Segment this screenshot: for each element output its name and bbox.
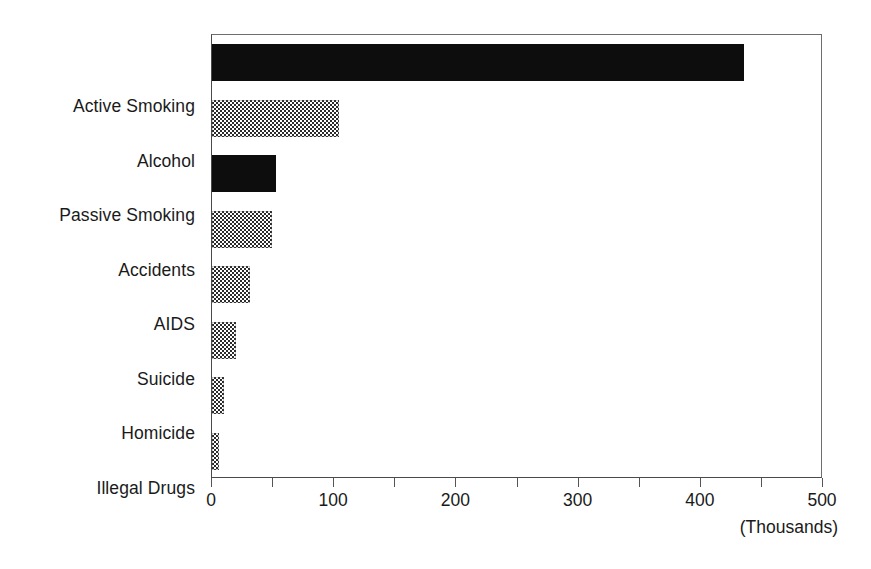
bar-illegal-drugs [212,433,219,470]
x-tick-100 [333,478,334,487]
bar-suicide [212,322,236,359]
bar-aids [212,266,250,303]
category-label-homicide: Homicide [0,423,195,443]
x-tick-label-500: 500 [807,489,836,511]
category-label-active-smoking: Active Smoking [0,96,195,116]
category-label-suicide: Suicide [0,369,195,389]
bars-layer [212,35,821,477]
bar-accidents [212,211,272,248]
category-label-accidents: Accidents [0,260,195,280]
x-tick-label-300: 300 [563,489,592,511]
x-tick-50 [272,478,273,487]
category-label-passive-smoking: Passive Smoking [0,205,195,225]
x-axis-tick-labels: 0 100 200 300 400 500 [0,489,871,515]
bar-passive-smoking [212,155,276,192]
x-axis-ticks [211,478,822,488]
x-axis-title: (Thousands) [0,516,838,538]
x-tick-200 [455,478,456,487]
x-tick-450 [761,478,762,487]
x-tick-350 [639,478,640,487]
x-tick-label-200: 200 [441,489,470,511]
x-tick-500 [822,478,823,487]
bar-homicide [212,377,224,414]
category-label-aids: AIDS [0,314,195,334]
bar-chart: Active Smoking Alcohol Passive Smoking A… [0,0,871,569]
x-tick-250 [517,478,518,487]
bar-alcohol [212,100,339,137]
plot-area [211,34,822,478]
category-label-alcohol: Alcohol [0,151,195,171]
x-tick-150 [394,478,395,487]
x-tick-label-400: 400 [685,489,714,511]
x-tick-label-0: 0 [206,489,216,511]
x-tick-300 [578,478,579,487]
x-tick-400 [700,478,701,487]
category-axis: Active Smoking Alcohol Passive Smoking A… [0,34,195,478]
bar-active-smoking [212,44,744,81]
x-tick-label-100: 100 [319,489,348,511]
x-tick-0 [211,478,212,487]
